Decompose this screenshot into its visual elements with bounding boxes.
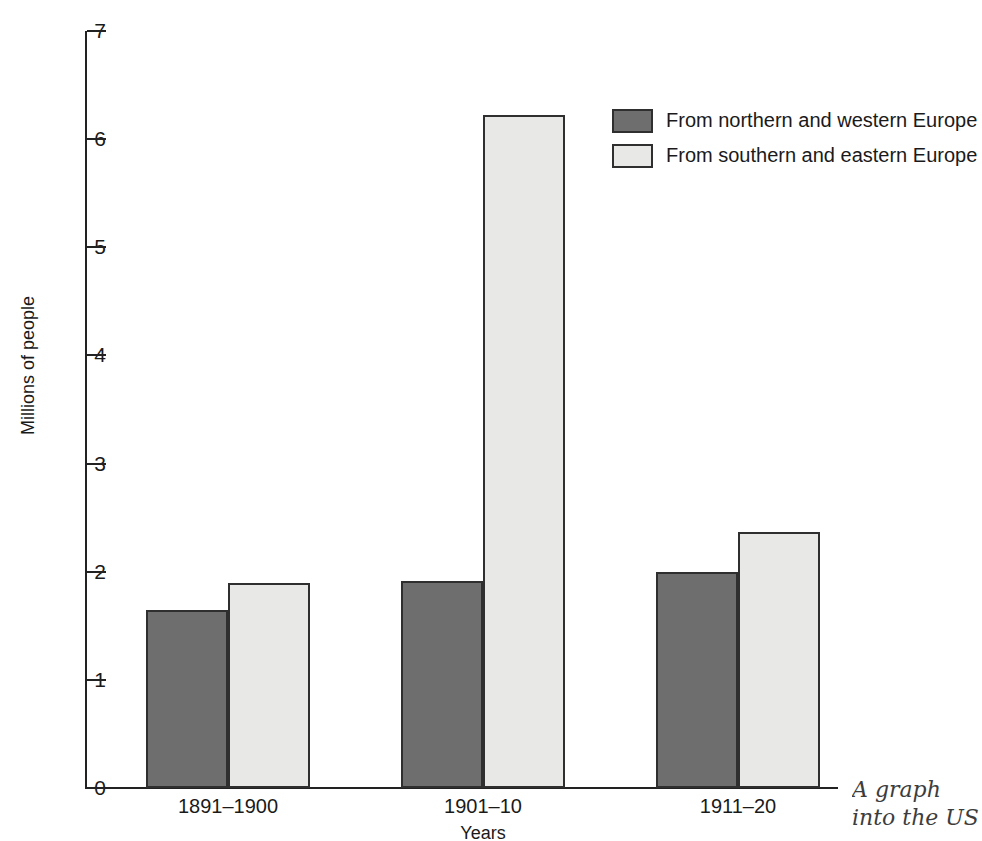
figure-caption: A graph into the US <box>852 776 982 832</box>
y-tick-mark <box>87 679 106 681</box>
caption-line-2: into the US <box>852 804 982 832</box>
y-axis-title: Millions of people <box>18 266 39 466</box>
y-tick-mark <box>87 571 106 573</box>
y-tick: 7 <box>0 30 106 32</box>
legend-item: From northern and western Europe <box>612 103 977 138</box>
y-tick-mark <box>87 787 106 789</box>
legend-item: From southern and eastern Europe <box>612 138 977 173</box>
legend-label: From southern and eastern Europe <box>666 144 977 167</box>
legend-swatch <box>612 109 653 133</box>
y-tick: 1 <box>0 679 106 681</box>
bar <box>738 532 820 788</box>
x-axis-title: Years <box>393 823 573 841</box>
bar <box>228 583 310 788</box>
y-tick: 4 <box>0 354 106 356</box>
y-tick: 6 <box>0 138 106 140</box>
y-tick-mark <box>87 246 106 248</box>
bar <box>483 115 565 788</box>
y-tick: 0 <box>0 787 106 789</box>
x-axis-category-label: 1911–20 <box>648 795 828 818</box>
x-axis-category-label: 1891–1900 <box>138 795 318 818</box>
bar <box>146 610 228 788</box>
y-tick: 3 <box>0 463 106 465</box>
caption-line-1: A graph <box>852 776 982 804</box>
y-tick-mark <box>87 30 106 32</box>
legend-label: From northern and western Europe <box>666 109 977 132</box>
y-tick: 5 <box>0 246 106 248</box>
x-axis-category-label: 1901–10 <box>393 795 573 818</box>
legend-swatch <box>612 144 653 168</box>
y-tick-mark <box>87 354 106 356</box>
y-tick-mark <box>87 138 106 140</box>
bar <box>401 581 483 788</box>
y-tick-mark <box>87 463 106 465</box>
y-tick: 2 <box>0 571 106 573</box>
chart-legend: From northern and western EuropeFrom sou… <box>612 103 977 173</box>
bar <box>656 572 738 788</box>
